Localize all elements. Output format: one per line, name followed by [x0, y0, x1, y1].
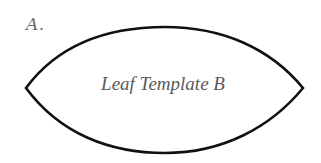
- leaf-title: Leaf Template B: [90, 73, 236, 95]
